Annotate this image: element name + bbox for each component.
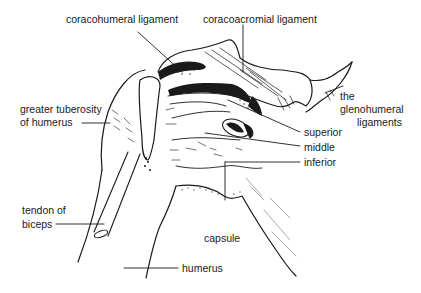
label-capsule: capsule: [204, 232, 240, 245]
shaft-hatching: [246, 178, 296, 256]
shoulder-anatomy-diagram: coracohumeral ligament coracoacromial li…: [0, 0, 421, 293]
label-biceps: biceps: [22, 218, 52, 231]
biceps-tendon: [93, 152, 140, 239]
label-humerus: humerus: [182, 262, 223, 275]
label-inferior: inferior: [304, 156, 336, 169]
coracoacromial-band: [205, 48, 334, 110]
label-tendon-of: tendon of: [22, 204, 66, 217]
label-of-humerus: of humerus: [20, 116, 73, 129]
label-the: the: [340, 90, 355, 103]
shoulder-illustration: [0, 0, 421, 293]
label-glenohumeral: glenohumeral: [340, 103, 404, 116]
shadow-grooves: [158, 61, 262, 132]
label-ligaments: ligaments: [357, 116, 402, 129]
label-greater-tuberosity: greater tuberosity: [20, 103, 102, 116]
label-superior: superior: [304, 126, 342, 139]
label-coracoacromial-ligament: coracoacromial ligament: [203, 13, 317, 26]
label-coracohumeral-ligament: coracohumeral ligament: [66, 13, 178, 26]
humeral-head: [78, 70, 160, 262]
hatching: [112, 108, 242, 160]
label-middle: middle: [304, 141, 335, 154]
